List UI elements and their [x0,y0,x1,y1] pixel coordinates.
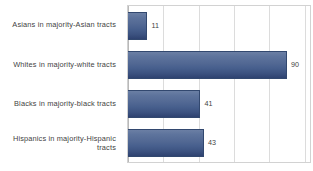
bar-whites [128,51,287,79]
bar-blacks [128,90,200,118]
bar-row: 90 [128,45,310,84]
bar-value-label: 43 [208,138,216,147]
bars-layer: 11 90 41 43 [128,6,310,162]
bar-chart: Asians in majority-Asian tracts Whites i… [0,0,313,171]
bar-row: 41 [128,84,310,123]
bar-value-label: 41 [204,99,212,108]
bar-row: 43 [128,123,310,162]
bar-asians [128,12,147,40]
category-label-blacks: Blacks in majority-black tracts [0,84,122,124]
category-label-asians: Asians in majority-Asian tracts [0,5,122,45]
category-label-hispanics: Hispanics in majority-Hispanic tracts [0,124,122,164]
plot-area: 11 90 41 43 [127,5,311,163]
bar-row: 11 [128,6,310,45]
bar-hispanics [128,129,204,157]
bar-value-label: 11 [151,21,159,30]
category-label-whites: Whites in majority-white tracts [0,45,122,85]
category-axis: Asians in majority-Asian tracts Whites i… [0,5,122,163]
bar-value-label: 90 [291,60,299,69]
